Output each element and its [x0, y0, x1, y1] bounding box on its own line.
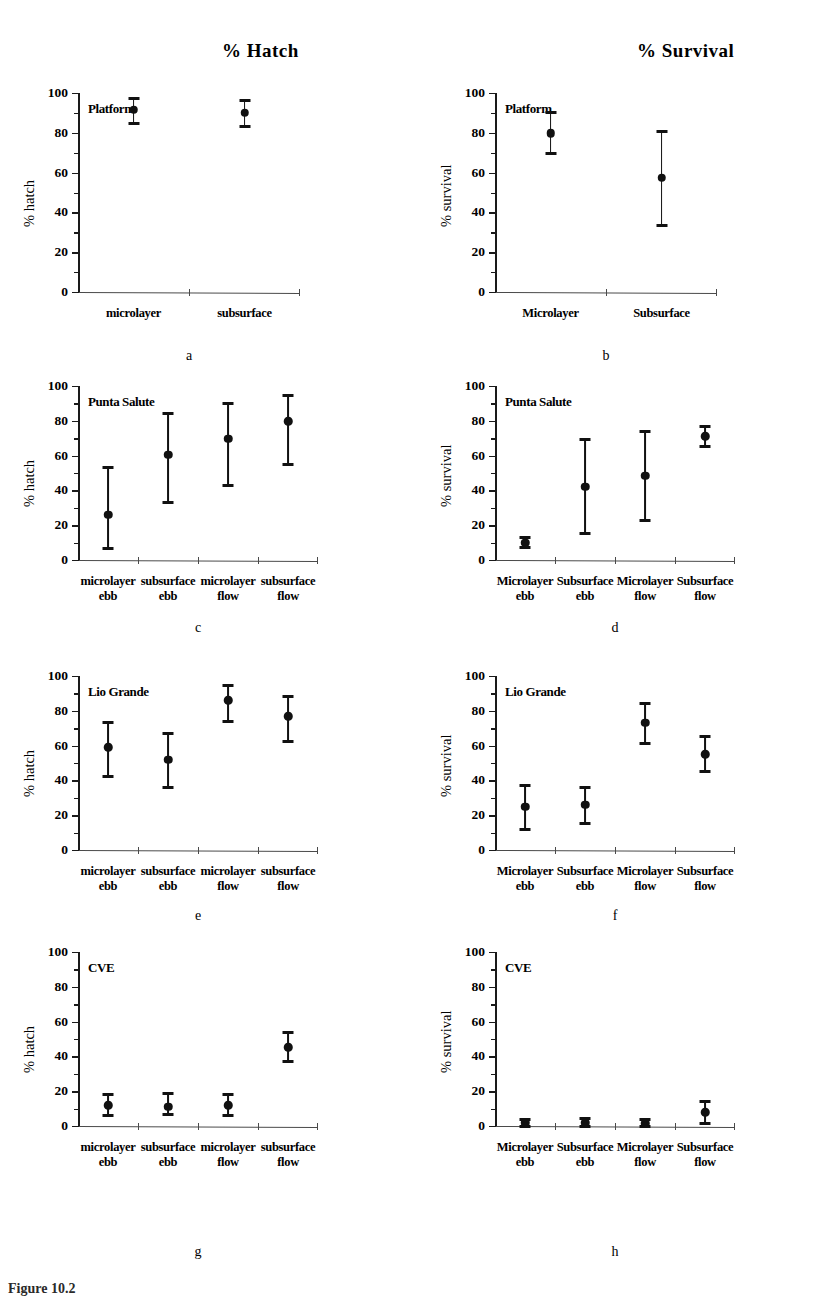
- y-tick-90: [491, 403, 495, 404]
- category-label-line: Microlayer: [617, 1140, 673, 1155]
- y-tick-70: [74, 153, 78, 154]
- y-axis-line: [495, 952, 497, 1126]
- y-tick-40: [72, 1056, 79, 1057]
- error-bar-cap-lower: [580, 532, 591, 535]
- y-tick-label-20: 20: [32, 517, 68, 533]
- y-axis-title: % hatch: [21, 179, 38, 226]
- data-point-marker: [641, 1119, 650, 1128]
- y-tick-10: [74, 543, 78, 544]
- category-label-line: flow: [200, 1155, 255, 1170]
- category-label-line: microlayer: [80, 864, 135, 879]
- y-tick-80: [72, 711, 79, 712]
- category-label: Microlayerebb: [497, 1140, 553, 1171]
- y-tick-100: [72, 386, 79, 387]
- error-bar-cap-upper: [283, 695, 294, 698]
- error-bar-cap-upper: [640, 702, 651, 705]
- category-label: Subsurfaceflow: [677, 574, 734, 605]
- category-label: Subsurfaceebb: [557, 864, 614, 895]
- error-bar-cap-upper: [283, 394, 294, 397]
- category-label: microlayer: [106, 306, 161, 321]
- y-axis-line: [78, 386, 80, 560]
- error-bar-cap-lower: [283, 463, 294, 466]
- y-tick-50: [491, 763, 495, 764]
- y-tick-0: [489, 1126, 496, 1127]
- category-label-line: flow: [200, 589, 255, 604]
- y-tick-40: [489, 1056, 496, 1057]
- error-bar-cap-lower: [580, 822, 591, 825]
- site-label: Lio Grande: [505, 684, 566, 700]
- panel-d: 020406080100% survivalPunta SaluteMicrol…: [495, 386, 735, 560]
- y-tick-20: [489, 252, 496, 253]
- error-bar-cap-upper: [128, 97, 139, 100]
- panel-letter-e: e: [195, 908, 201, 924]
- data-point-marker: [521, 1118, 530, 1127]
- category-label-line: subsurface: [261, 864, 316, 879]
- panel-letter-b: b: [603, 348, 610, 364]
- error-bar-cap-lower: [103, 1114, 114, 1117]
- y-tick-label-100: 100: [449, 944, 485, 960]
- panel-h: 020406080100% survivalCVEMicrolayerebbSu…: [495, 952, 735, 1126]
- data-point-marker: [104, 1101, 113, 1110]
- y-tick-10: [74, 1109, 78, 1110]
- error-bar-cap-lower: [520, 828, 531, 831]
- category-label-line: Microlayer: [497, 864, 553, 879]
- error-bar-cap-upper: [640, 430, 651, 433]
- error-bar-cap-upper: [580, 438, 591, 441]
- error-bar-cap-lower: [163, 786, 174, 789]
- panel-g: 020406080100% hatchCVEmicrolayerebbsubsu…: [78, 952, 318, 1126]
- category-label-line: flow: [617, 879, 673, 894]
- site-label: Lio Grande: [88, 684, 149, 700]
- category-label: microlayerebb: [80, 864, 135, 895]
- y-tick-20: [72, 815, 79, 816]
- x-tick-3: [675, 1123, 676, 1130]
- x-tick-end: [734, 1123, 735, 1130]
- x-tick-2: [615, 1123, 616, 1130]
- y-axis-line: [495, 676, 497, 850]
- category-label-line: Microlayer: [617, 864, 673, 879]
- category-label: Microlayerebb: [497, 574, 553, 605]
- category-label-line: subsurface: [261, 1140, 316, 1155]
- data-point-marker: [164, 755, 173, 764]
- y-tick-label-100: 100: [449, 378, 485, 394]
- y-tick-70: [74, 438, 78, 439]
- error-bar-cap-upper: [700, 425, 711, 428]
- category-label-line: Subsurface: [557, 1140, 614, 1155]
- panel-b: 020406080100% survivalPlatformMicrolayer…: [495, 93, 717, 292]
- error-bar-cap-lower: [283, 740, 294, 743]
- y-tick-30: [491, 798, 495, 799]
- panel-letter-f: f: [613, 908, 618, 924]
- y-tick-90: [491, 693, 495, 694]
- x-tick-1: [555, 847, 556, 854]
- x-tick-end: [299, 289, 300, 296]
- category-label-line: Microlayer: [497, 1140, 553, 1155]
- category-label: Subsurfaceflow: [677, 1140, 734, 1171]
- y-tick-label-80: 80: [449, 413, 485, 429]
- panel-letter-h: h: [612, 1244, 619, 1260]
- x-tick-end: [317, 1123, 318, 1130]
- y-tick-80: [489, 133, 496, 134]
- category-label-line: Subsurface: [633, 306, 690, 321]
- category-label: subsurfaceebb: [141, 864, 196, 895]
- y-tick-100: [489, 93, 496, 94]
- data-point-marker: [224, 1101, 233, 1110]
- y-tick-label-0: 0: [449, 284, 485, 300]
- y-tick-90: [491, 969, 495, 970]
- y-tick-40: [72, 780, 79, 781]
- y-tick-0: [489, 292, 496, 293]
- y-tick-label-100: 100: [32, 944, 68, 960]
- y-tick-label-100: 100: [449, 668, 485, 684]
- y-tick-label-80: 80: [449, 979, 485, 995]
- category-label-line: microlayer: [200, 574, 255, 589]
- y-tick-60: [72, 1022, 79, 1023]
- y-tick-100: [489, 676, 496, 677]
- category-label: subsurfaceflow: [261, 864, 316, 895]
- data-point-marker: [240, 109, 249, 118]
- error-bar-cap-lower: [223, 484, 234, 487]
- y-tick-30: [74, 798, 78, 799]
- category-label: subsurfaceflow: [261, 574, 316, 605]
- y-tick-90: [74, 969, 78, 970]
- data-point-marker: [129, 106, 138, 115]
- category-label: Subsurfaceflow: [677, 864, 734, 895]
- panel-c: 020406080100% hatchPunta Salutemicrolaye…: [78, 386, 318, 560]
- category-label-line: flow: [261, 1155, 316, 1170]
